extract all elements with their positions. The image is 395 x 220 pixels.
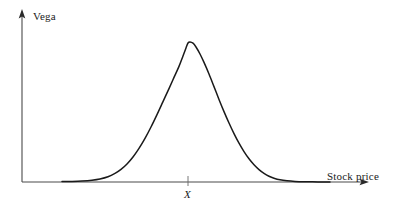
strike-price-label: X — [184, 188, 191, 200]
vega-curve-line — [62, 42, 330, 182]
vega-chart-figure: Vega Stock price X — [0, 0, 395, 220]
chart-plot-area — [0, 0, 395, 220]
y-axis-label: Vega — [33, 10, 56, 22]
x-axis-label: Stock price — [327, 170, 379, 182]
